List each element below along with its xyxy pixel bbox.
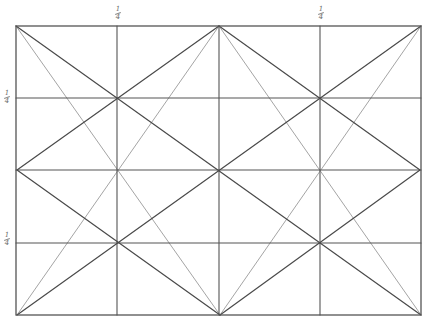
fraction-label-top-left: 1 4 — [113, 6, 123, 21]
armature-diagram — [0, 0, 423, 318]
fraction-label-left-upper: 1 4 — [2, 90, 12, 105]
fraction-label-top-right: 1 4 — [316, 6, 326, 21]
fraction-label-left-lower: 1 4 — [2, 232, 12, 247]
